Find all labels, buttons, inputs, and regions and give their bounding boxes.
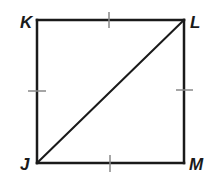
square-diagram: K L J M [0,0,209,186]
vertex-label-k: K [20,13,34,32]
vertex-label-j: J [20,155,30,174]
vertex-label-l: L [190,13,200,32]
diagonal-jl [37,20,184,163]
vertex-label-m: M [189,155,204,174]
